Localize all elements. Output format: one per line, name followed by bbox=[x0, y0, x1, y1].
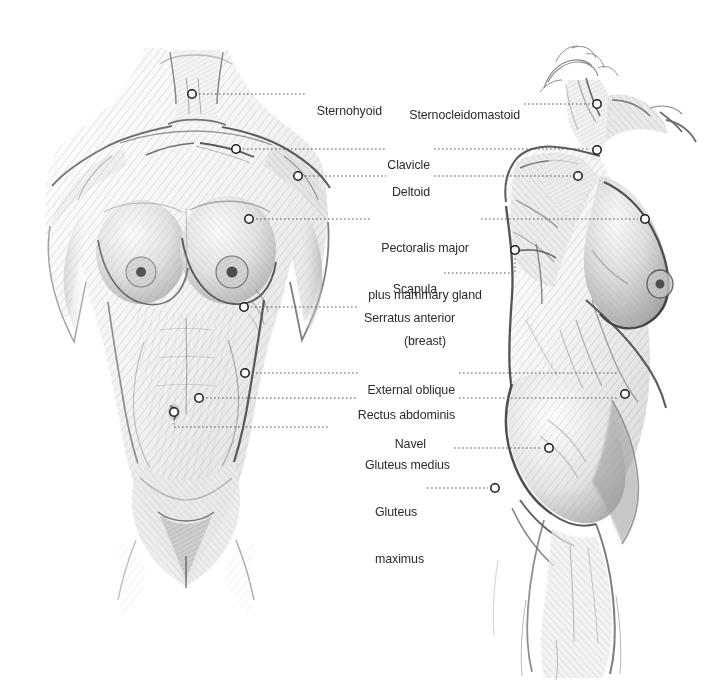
label-serratus-text: Serratus anterior bbox=[364, 310, 455, 325]
marker-sternohyoid-front bbox=[188, 90, 196, 98]
marker-pectoralis-side bbox=[641, 215, 649, 223]
marker-clavicle-side bbox=[593, 146, 601, 154]
label-deltoid-text: Deltoid bbox=[392, 184, 430, 199]
label-sternocleidomastoid: Sternocleidomastoid bbox=[400, 91, 520, 122]
label-gluteus-medius: Gluteus medius bbox=[349, 441, 450, 472]
label-gluteus-medius-text: Gluteus medius bbox=[365, 457, 450, 472]
marker-sternocleidomastoid-side bbox=[593, 100, 601, 108]
marker-external-oblique-side bbox=[621, 390, 629, 398]
label-sternohyoid: Sternohyoid bbox=[310, 87, 382, 118]
label-gluteus-maximus: Gluteus maximus bbox=[375, 473, 476, 582]
anterior-figure bbox=[45, 48, 330, 616]
label-scapula: Scapula bbox=[345, 265, 437, 296]
label-gluteus-maximus-line1: Gluteus bbox=[375, 504, 476, 520]
lateral-figure bbox=[493, 46, 696, 680]
label-gluteus-maximus-line2: maximus bbox=[375, 551, 476, 567]
marker-deltoid-side bbox=[574, 172, 582, 180]
marker-external-oblique-front bbox=[241, 369, 249, 377]
marker-gluteus-medius-side bbox=[545, 444, 553, 452]
label-pectoralis-line1: Pectoralis major bbox=[333, 240, 517, 256]
marker-pectoralis-front bbox=[245, 215, 253, 223]
anatomy-diagram-canvas: Sternohyoid Clavicle Deltoid Pectoralis … bbox=[0, 0, 722, 682]
label-serratus-anterior: Serratus anterior bbox=[345, 294, 455, 325]
marker-rectus-abdominis-front bbox=[195, 394, 203, 402]
label-pectoralis-line3: (breast) bbox=[333, 333, 517, 349]
label-deltoid: Deltoid bbox=[338, 168, 430, 199]
marker-clavicle-front bbox=[232, 145, 240, 153]
marker-navel-front bbox=[170, 408, 178, 416]
label-sternohyoid-text: Sternohyoid bbox=[317, 103, 382, 118]
marker-serratus-front bbox=[240, 303, 248, 311]
label-sternocleidomastoid-text: Sternocleidomastoid bbox=[409, 107, 520, 122]
marker-deltoid-front bbox=[294, 172, 302, 180]
label-rectus-abdominis: Rectus abdominis bbox=[345, 391, 455, 422]
marker-gluteus-maximus-side bbox=[491, 484, 499, 492]
